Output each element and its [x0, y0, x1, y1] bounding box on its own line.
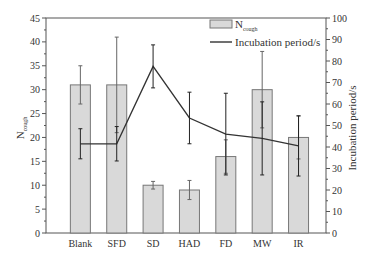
left-axis: 051015202530354045	[30, 13, 46, 239]
y-tick-label: 15	[30, 156, 40, 167]
y2-tick-label: 100	[332, 13, 347, 24]
y2-tick-label: 20	[332, 185, 342, 196]
y-tick-label: 20	[30, 132, 40, 143]
y2-tick-label: 40	[332, 142, 342, 153]
y2-tick-label: 70	[332, 77, 342, 88]
y2-tick-label: 10	[332, 206, 342, 217]
x-tick-label: SFD	[108, 238, 126, 249]
x-tick-label: SD	[147, 238, 160, 249]
chart: 051015202530354045 010203040506070809010…	[0, 0, 366, 254]
y2-tick-label: 50	[332, 120, 342, 131]
y-tick-label: 25	[30, 108, 40, 119]
x-tick-label: HAD	[179, 238, 201, 249]
x-tick-label: MW	[253, 238, 272, 249]
legend-bar-swatch	[210, 20, 232, 28]
y-tick-label: 5	[35, 204, 40, 215]
y2-tick-label: 30	[332, 163, 342, 174]
y2-tick-label: 60	[332, 99, 342, 110]
x-tick-label: IR	[294, 238, 304, 249]
legend-line-label: Incubation period/s	[235, 36, 320, 48]
bar	[143, 185, 163, 233]
x-tick-label: FD	[219, 238, 232, 249]
legend: NcoughIncubation period/s	[210, 18, 320, 48]
right-axis: 0102030405060708090100	[326, 13, 347, 239]
x-axis: BlankSFDSDHADFDMWIR	[68, 238, 303, 249]
y-tick-label: 35	[30, 60, 40, 71]
y2-tick-label: 0	[332, 228, 337, 239]
y2-tick-label: 80	[332, 56, 342, 67]
y-tick-label: 10	[30, 180, 40, 191]
y2-axis-label: Incubation period/s	[346, 85, 358, 170]
x-tick-label: Blank	[68, 238, 92, 249]
y2-tick-label: 90	[332, 34, 342, 45]
y-tick-label: 30	[30, 84, 40, 95]
y-tick-label: 45	[30, 13, 40, 24]
y-tick-label: 40	[30, 36, 40, 47]
y-tick-label: 0	[35, 228, 40, 239]
y-axis-label: Ncough	[14, 117, 28, 140]
legend-bar-label: Ncough	[235, 18, 258, 32]
